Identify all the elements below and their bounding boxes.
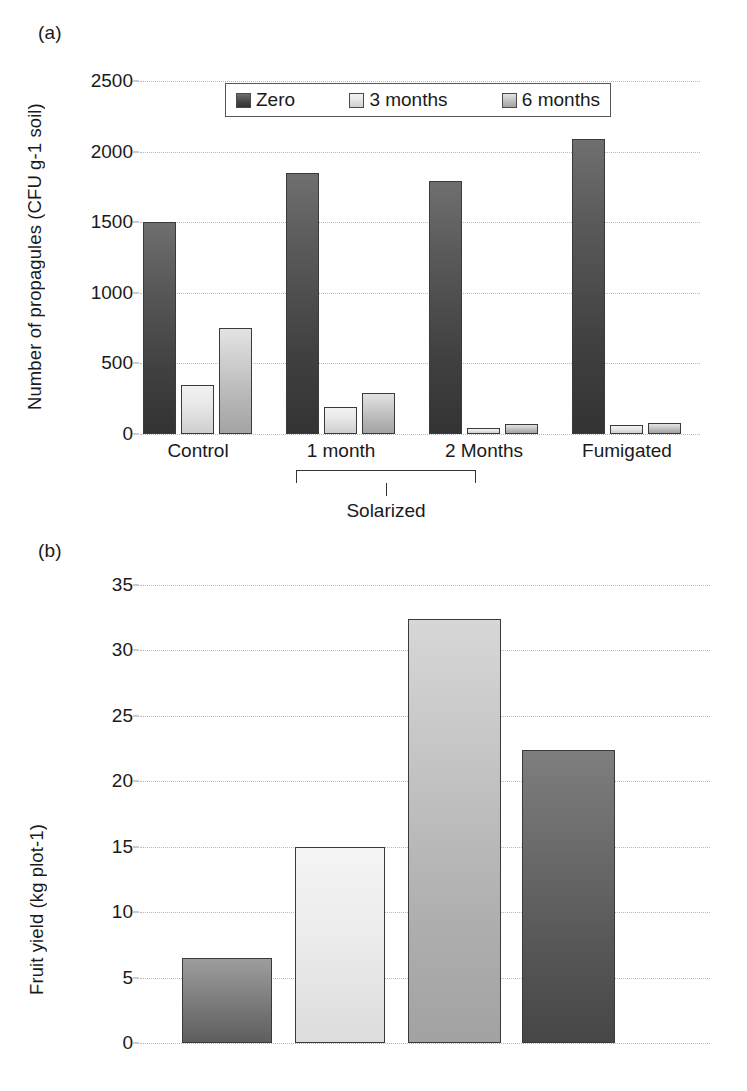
- legend-label-zero: Zero: [256, 89, 295, 111]
- xlabel-control: Control: [167, 440, 228, 462]
- bar-2months-3months: [467, 428, 500, 434]
- bar-1month-3months: [324, 407, 357, 434]
- xlabel-1month: 1 month: [307, 440, 376, 462]
- ytick-dash-b-20: [133, 781, 139, 782]
- ytick-dash-b-25: [133, 715, 139, 716]
- bar-control-3months: [181, 385, 214, 434]
- ytick-dash-b-30: [133, 650, 139, 651]
- solarized-bracket: [296, 470, 476, 496]
- gridline-b-35: [140, 585, 710, 586]
- panel-b-tag: (b): [38, 540, 62, 562]
- ytick-label-500: 500: [101, 352, 133, 374]
- bar-control-6months: [219, 328, 252, 434]
- legend-label-6months: 6 months: [522, 89, 600, 111]
- panel-a: (a) Number of propagules (CFU g-1 soil) …: [0, 0, 747, 540]
- panel-a-tag: (a): [38, 22, 62, 44]
- ytick-label-b-5: 5: [122, 967, 133, 989]
- bar-1month-zero: [286, 173, 319, 434]
- bar-b-2months: [408, 619, 501, 1043]
- ytick-dash-2500: [133, 81, 139, 82]
- bar-fumigated-6months: [648, 423, 681, 435]
- bracket-stem: [386, 483, 387, 496]
- bracket-top: [296, 470, 476, 483]
- gridline-2000: [140, 152, 700, 153]
- bar-fumigated-3months: [610, 425, 643, 435]
- gridline-2500: [140, 81, 700, 82]
- legend-swatch-6months-icon: [502, 93, 517, 108]
- legend-item-zero[interactable]: Zero: [236, 89, 295, 111]
- legend-item-3months[interactable]: 3 months: [349, 89, 447, 111]
- ytick-label-0: 0: [122, 423, 133, 445]
- ytick-dash-b-10: [133, 912, 139, 913]
- solarized-label: Solarized: [346, 500, 425, 522]
- ytick-label-b-30: 30: [112, 639, 133, 661]
- bar-2months-zero: [429, 181, 462, 434]
- ytick-dash-1500: [133, 222, 139, 223]
- legend-swatch-3months-icon: [349, 93, 364, 108]
- ytick-label-1500: 1500: [91, 211, 133, 233]
- ytick-label-b-25: 25: [112, 705, 133, 727]
- panel-a-y-axis-title: Number of propagules (CFU g-1 soil): [24, 110, 46, 410]
- bar-b-1month: [295, 847, 385, 1043]
- ytick-label-b-15: 15: [112, 836, 133, 858]
- ytick-dash-b-5: [133, 977, 139, 978]
- bar-fumigated-zero: [572, 139, 605, 434]
- xlabel-fumigated: Fumigated: [582, 440, 672, 462]
- gridline-1500: [140, 222, 700, 223]
- bar-1month-6months: [362, 393, 395, 434]
- legend-item-6months[interactable]: 6 months: [502, 89, 600, 111]
- panel-a-plot-area: 2500 2000 1500 1000 500 0: [140, 81, 700, 434]
- ytick-label-b-35: 35: [112, 574, 133, 596]
- panel-b-y-axis-title: Fruit yield (kg plot-1): [26, 705, 48, 995]
- gridline-0: [140, 434, 700, 435]
- gridline-1000: [140, 293, 700, 294]
- xlabel-2months: 2 Months: [445, 440, 523, 462]
- panel-b-plot-area: 35 30 25 20 15 10 5 0: [140, 585, 710, 1043]
- ytick-dash-2000: [133, 151, 139, 152]
- ytick-dash-b-35: [133, 585, 139, 586]
- legend-swatch-zero-icon: [236, 93, 251, 108]
- ytick-dash-1000: [133, 292, 139, 293]
- gridline-b-0: [140, 1043, 710, 1044]
- ytick-dash-0: [133, 434, 139, 435]
- ytick-dash-b-15: [133, 846, 139, 847]
- legend-label-3months: 3 months: [369, 89, 447, 111]
- ytick-label-b-20: 20: [112, 770, 133, 792]
- panel-a-legend: Zero 3 months 6 months: [225, 83, 611, 117]
- bar-b-control: [182, 958, 272, 1043]
- ytick-dash-b-0: [133, 1043, 139, 1044]
- ytick-label-2500: 2500: [91, 70, 133, 92]
- bar-b-fumigated: [522, 750, 615, 1043]
- bar-2months-6months: [505, 424, 538, 435]
- ytick-label-b-0: 0: [122, 1032, 133, 1054]
- panel-b: (b) Fruit yield (kg plot-1) 35 30 25 20 …: [0, 530, 747, 1091]
- bar-control-zero: [143, 222, 176, 434]
- ytick-label-2000: 2000: [91, 141, 133, 163]
- ytick-label-b-10: 10: [112, 901, 133, 923]
- ytick-label-1000: 1000: [91, 282, 133, 304]
- ytick-dash-500: [133, 363, 139, 364]
